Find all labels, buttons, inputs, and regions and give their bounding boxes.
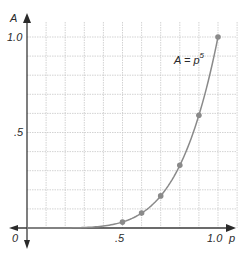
x-tick-0-5: .5 (115, 232, 125, 244)
chart: A p 1.0 .5 0 .5 1.0 A = p5 (0, 0, 247, 253)
data-point (139, 210, 145, 216)
x-tick-0: 0 (12, 232, 19, 244)
grid-lines (27, 22, 237, 228)
y-axis-arrow-up-icon (23, 13, 31, 23)
data-point (120, 219, 126, 225)
data-point (177, 163, 183, 169)
x-axis-arrow-right-icon (226, 224, 236, 232)
data-point (215, 34, 221, 40)
data-point (158, 193, 164, 199)
curve-annotation: A = p5 (173, 51, 205, 66)
y-axis-label: A (9, 12, 17, 24)
data-point (196, 113, 202, 119)
x-tick-1-0: 1.0 (207, 232, 223, 244)
x-axis-label: p (228, 232, 235, 244)
annotation-exponent: 5 (200, 51, 205, 60)
annotation-base: A = p (173, 54, 200, 66)
x-axis-arrow-left-icon (9, 225, 18, 231)
y-tick-1-0: 1.0 (7, 31, 23, 43)
y-axis-arrow-down-icon (24, 240, 30, 249)
y-tick-0-5: .5 (14, 126, 24, 138)
data-points (120, 34, 221, 225)
